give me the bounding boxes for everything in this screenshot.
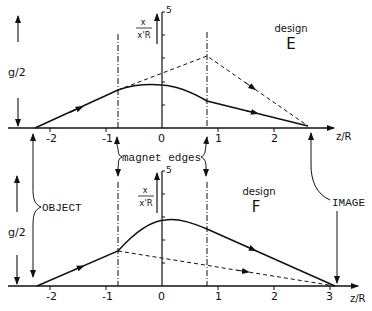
x-axis-label: z/R: [336, 131, 352, 142]
x-tick-label: 3: [326, 290, 333, 303]
beam-optics-diagram: -2 -1 0 1 2 z/R 5 x x'R design E: [0, 0, 372, 311]
image-label: IMAGE: [332, 197, 365, 209]
design-letter: E: [286, 35, 295, 53]
magnet-edges-label: magnet edges: [122, 152, 201, 164]
y-axis-label-den: x'R: [139, 198, 152, 208]
design-word: design: [242, 186, 275, 197]
y-axis-label-num: x: [143, 186, 148, 195]
x-tick-label: -1: [102, 132, 113, 145]
x-tick-label: 0: [158, 290, 165, 303]
x-tick-label: 1: [215, 290, 222, 303]
y-axis-label-num: x: [141, 18, 146, 27]
design-word: design: [274, 23, 307, 34]
y-axis-max: 5: [166, 5, 172, 15]
panel-design-e: -2 -1 0 1 2 z/R 5 x x'R design E: [8, 5, 352, 145]
x-tick-label: 2: [271, 132, 278, 145]
x-axis-label: z/R: [350, 293, 366, 304]
gap-label: g/2: [8, 226, 26, 239]
annotations: magnet edges OBJECT IMAGE: [33, 133, 365, 283]
trajectory-solid: [35, 85, 308, 128]
panel-design-f: -2 -1 0 1 2 3 z/R 5 x x'R design F: [8, 165, 366, 304]
x-tick-label: -2: [46, 132, 57, 145]
trajectory-dashed: [118, 251, 335, 286]
x-tick-label: 0: [158, 132, 165, 145]
x-tick-label: 2: [271, 290, 278, 303]
object-label: OBJECT: [42, 202, 82, 214]
diagram-svg: -2 -1 0 1 2 z/R 5 x x'R design E: [0, 0, 372, 311]
x-tick-label: 1: [215, 132, 222, 145]
design-letter: F: [252, 198, 261, 216]
y-axis-label-den: x'R: [137, 30, 150, 40]
trajectory-solid: [37, 220, 335, 286]
trajectory-dashed: [118, 56, 308, 126]
x-tick-label: -2: [46, 290, 57, 303]
x-tick-label: -1: [102, 290, 113, 303]
gap-label: g/2: [8, 66, 26, 79]
y-axis-max: 5: [166, 165, 172, 175]
